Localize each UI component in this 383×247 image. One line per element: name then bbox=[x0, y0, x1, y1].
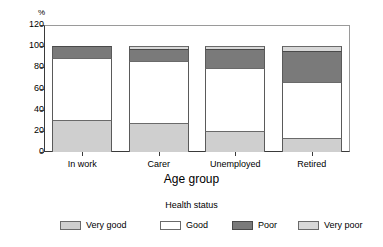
x-tick-label: Retired bbox=[274, 159, 351, 170]
bar-segment bbox=[205, 131, 265, 152]
bar-segment bbox=[282, 82, 342, 138]
legend-swatch-poor-icon bbox=[232, 221, 253, 230]
legend-title: Health status bbox=[0, 200, 383, 211]
legend: Very goodGoodPoorVery poor bbox=[0, 219, 383, 233]
x-tick-label: Unemployed bbox=[197, 159, 274, 170]
x-tick-label: In work bbox=[44, 159, 121, 170]
x-tick-label: Carer bbox=[121, 159, 198, 170]
bar-segment bbox=[282, 51, 342, 82]
y-tick-mark bbox=[40, 152, 44, 153]
bar-segment bbox=[205, 68, 265, 130]
x-tick-mark bbox=[312, 152, 313, 156]
bar-segment bbox=[282, 138, 342, 152]
legend-swatch-good-icon bbox=[160, 221, 181, 230]
bar-segment bbox=[129, 46, 189, 49]
legend-label: Very poor bbox=[324, 220, 363, 231]
x-tick-mark bbox=[235, 152, 236, 156]
legend-label: Poor bbox=[258, 220, 277, 231]
x-axis-title: Age group bbox=[0, 172, 383, 186]
bar-segment bbox=[52, 46, 112, 58]
bar-segment bbox=[282, 46, 342, 51]
bar-segment bbox=[129, 61, 189, 123]
legend-label: Good bbox=[186, 220, 208, 231]
legend-swatch-verypoor-icon bbox=[298, 221, 319, 230]
bar-segment bbox=[205, 49, 265, 68]
stacked-bar-chart: % 020406080100120 In workCarerUnemployed… bbox=[0, 0, 383, 247]
bar-segment bbox=[129, 49, 189, 61]
legend-label: Very good bbox=[86, 220, 127, 231]
bar-segment bbox=[52, 120, 112, 152]
bar-segment bbox=[205, 46, 265, 49]
x-tick-mark bbox=[159, 152, 160, 156]
bar-segment bbox=[129, 123, 189, 152]
bar-segment bbox=[52, 58, 112, 120]
x-tick-mark bbox=[82, 152, 83, 156]
legend-swatch-verygood-icon bbox=[60, 221, 81, 230]
bars-layer bbox=[44, 25, 350, 152]
